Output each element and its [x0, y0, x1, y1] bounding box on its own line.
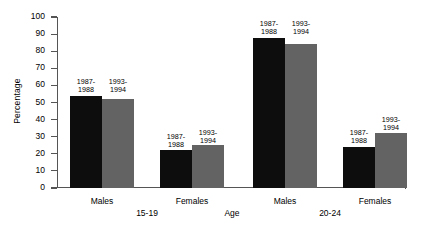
x-axis-labels: Males Females Males Females 15-19 20-24 …	[0, 0, 433, 229]
x-group-label-15-19: 15-19	[107, 208, 187, 218]
x-group-label-20-24: 20-24	[290, 208, 370, 218]
x-axis-title: Age	[192, 208, 272, 218]
x-label-males-15-19: Males	[62, 196, 142, 206]
x-label-males-20-24: Males	[245, 196, 325, 206]
x-label-females-15-19: Females	[152, 196, 232, 206]
bar-chart: Percentage 100 90 80 70 60 50 40	[0, 0, 433, 229]
x-label-females-20-24: Females	[335, 196, 415, 206]
